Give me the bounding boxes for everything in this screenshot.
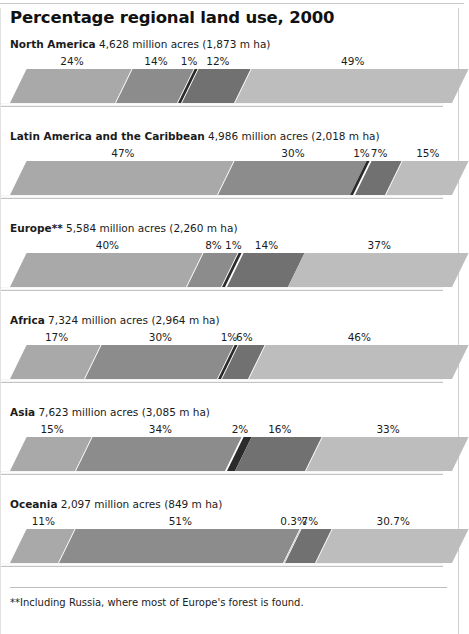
bar-segment-face [288,253,468,287]
segment-percent-label: 37% [368,237,391,253]
segment-percent-label: 51% [169,513,192,529]
segment-percent-label: 33% [376,421,399,437]
region-area: 7,623 million acres (3,085 m ha) [35,406,210,418]
segment-percent-label: 30.7% [377,513,410,529]
segment-label-row: 40%8%1%14%37% [10,237,452,253]
segment-percent-label: 17% [45,329,68,345]
segment-percent-label: 12% [206,53,229,69]
bar-segment-face [316,529,468,563]
bar-segment-face [235,69,468,103]
segment-label-row: 47%30%1%7%15% [10,145,452,161]
bar-segment [235,69,468,103]
region-bar [10,345,452,385]
region-name: Oceania [10,498,58,510]
bar-bottom-edge-line [1,198,443,199]
stacked-bar [10,529,452,563]
segment-percent-label: 15% [416,145,439,161]
region-area: 5,584 million acres (2,260 m ha) [63,222,238,234]
segment-percent-label: 40% [96,237,119,253]
footnote-divider [10,587,447,588]
region-bar [10,437,452,477]
region-block: Africa 7,324 million acres (2,964 m ha)1… [10,313,452,385]
segment-label-row: 15%34%2%16%33% [10,421,452,437]
segment-percent-label: 8% [205,237,222,253]
bar-segment-face [10,253,203,287]
bar-segment-face [10,69,133,103]
region-name: Asia [10,406,35,418]
region-caption: Asia 7,623 million acres (3,085 m ha) [10,405,452,419]
bar-segment [218,161,367,195]
segment-percent-label: 49% [341,53,364,69]
stacked-bar [10,161,452,195]
bar-segment-face [10,161,234,195]
segment-percent-label: 30% [149,329,172,345]
region-name: Africa [10,314,45,326]
stacked-bar [10,69,452,103]
region-block: Europe** 5,584 million acres (2,260 m ha… [10,221,452,293]
bar-segment-face [249,345,469,379]
bar-bottom-edge-line [1,566,443,567]
region-block: Asia 7,623 million acres (3,085 m ha)15%… [10,405,452,477]
region-area: 4,628 million acres (1,873 m ha) [96,38,271,50]
region-name: Europe** [10,222,63,234]
region-area: 4,986 million acres (2,018 m ha) [205,130,380,142]
bar-bottom-edge-line [1,290,443,291]
segment-percent-label: 24% [60,53,83,69]
page-frame-top-rule [0,3,464,4]
region-caption: Europe** 5,584 million acres (2,260 m ha… [10,221,452,235]
bar-segment [10,253,203,287]
region-bar [10,69,452,109]
stacked-bar [10,437,452,471]
segment-label-row: 11%51%0.3%7%30.7% [10,513,452,529]
bar-bottom-edge-line [1,106,443,107]
segment-percent-label: 1% [221,329,238,345]
bar-segment-face [76,437,243,471]
bar-segment [316,529,468,563]
bar-segment-face [85,345,234,379]
segment-percent-label: 15% [40,421,63,437]
segment-percent-label: 1% [353,145,370,161]
stacked-bar [10,345,452,379]
bar-segment [85,345,234,379]
segment-percent-label: 1% [225,237,242,253]
segment-percent-label: 16% [268,421,291,437]
segment-percent-label: 6% [236,329,253,345]
bar-segment [306,437,468,471]
region-caption: North America 4,628 million acres (1,873… [10,37,452,51]
region-caption: Africa 7,324 million acres (2,964 m ha) [10,313,452,327]
segment-percent-label: 2% [232,421,249,437]
region-caption: Oceania 2,097 million acres (849 m ha) [10,497,452,511]
segment-percent-label: 11% [32,513,55,529]
region-area: 2,097 million acres (849 m ha) [58,498,223,510]
bar-segment [10,69,133,103]
region-block: Oceania 2,097 million acres (849 m ha)11… [10,497,452,569]
bar-segment [59,529,301,563]
segment-percent-label: 14% [144,53,167,69]
region-block: Latin America and the Caribbean 4,986 mi… [10,129,452,201]
segment-percent-label: 7% [371,145,388,161]
region-caption: Latin America and the Caribbean 4,986 mi… [10,129,452,143]
chart-content: Percentage regional land use, 2000 North… [0,8,452,610]
bar-segment-face [218,161,367,195]
page-title: Percentage regional land use, 2000 [10,8,452,28]
region-bar [10,253,452,293]
region-bar [10,161,452,201]
segment-percent-label: 46% [348,329,371,345]
segment-label-row: 17%30%1%6%46% [10,329,452,345]
bar-bottom-edge-line [1,382,443,383]
segment-percent-label: 14% [255,237,278,253]
segment-percent-label: 47% [111,145,134,161]
bar-bottom-edge-line [1,474,443,475]
segment-percent-label: 34% [149,421,172,437]
segment-percent-label: 30% [281,145,304,161]
footnote: **Including Russia, where most of Europe… [10,596,452,610]
stacked-bar [10,253,452,287]
region-bar [10,529,452,569]
region-name: North America [10,38,96,50]
bar-segment-face [306,437,468,471]
segment-percent-label: 1% [181,53,198,69]
bar-segment [249,345,469,379]
bar-segment [10,161,234,195]
segment-percent-label: 7% [301,513,318,529]
